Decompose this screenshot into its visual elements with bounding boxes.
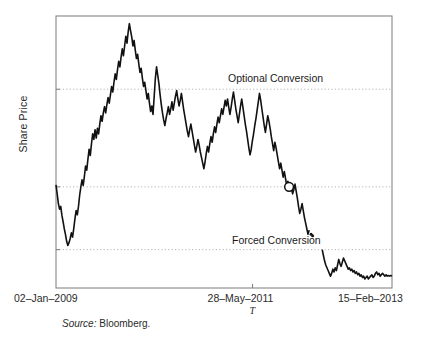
source-caption: Source: Bloomberg. — [62, 318, 150, 329]
annotation-forced-conversion: Forced Conversion — [232, 234, 321, 246]
source-value: Bloomberg. — [99, 318, 150, 329]
source-label: Source: — [62, 318, 96, 329]
x-axis-title: T — [250, 305, 256, 316]
x-tick-label-2: 15–Feb–2013 — [338, 292, 403, 304]
plot-frame — [56, 16, 392, 288]
x-tick-label-0: 02–Jan–2009 — [14, 292, 78, 304]
annotation-optional-conversion: Optional Conversion — [228, 72, 323, 84]
conversion-marker — [285, 182, 294, 191]
x-tick-label-1: 28–May–2011 — [208, 292, 274, 304]
share-price-figure: Share Price 3.31.91.0 02–Jan–200928–May–… — [0, 0, 445, 339]
y-axis-title: Share Price — [17, 79, 29, 169]
chart-canvas — [0, 0, 445, 339]
